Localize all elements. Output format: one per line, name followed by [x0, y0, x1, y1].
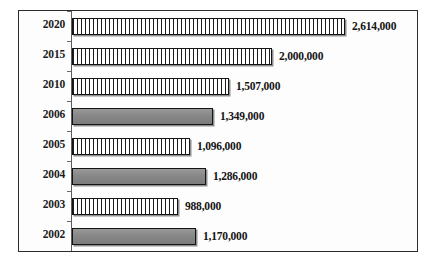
bar-2002: [72, 228, 196, 245]
value-label-2003: 988,000: [185, 200, 221, 213]
bar-row: 20152,000,000: [19, 41, 417, 71]
category-label-2003: 2003: [19, 198, 65, 211]
value-label-2020: 2,614,000: [352, 20, 396, 33]
value-label-2006: 1,349,000: [220, 110, 264, 123]
bar-and-label: 2,000,000: [72, 47, 323, 66]
axis-tick: [67, 191, 71, 192]
category-label-2020: 2020: [19, 18, 65, 31]
bar-and-label: 2,614,000: [72, 17, 396, 36]
bar-and-label: 1,096,000: [72, 137, 241, 156]
bar-row: 20101,507,000: [19, 71, 417, 101]
bar-rows-container: 20202,614,00020152,000,00020101,507,0002…: [19, 11, 417, 251]
axis-tick: [67, 131, 71, 132]
bar-chart-figure: 20202,614,00020152,000,00020101,507,0002…: [0, 0, 435, 268]
bar-2015: [72, 48, 272, 65]
bar-row: 2003988,000: [19, 191, 417, 221]
bar-2005: [72, 138, 190, 155]
bar-and-label: 1,170,000: [72, 227, 247, 246]
category-label-2015: 2015: [19, 48, 65, 61]
bar-and-label: 1,286,000: [72, 167, 257, 186]
axis-tick: [67, 41, 71, 42]
value-label-2005: 1,096,000: [197, 140, 241, 153]
category-label-2006: 2006: [19, 108, 65, 121]
category-label-2005: 2005: [19, 138, 65, 151]
value-label-2002: 1,170,000: [203, 230, 247, 243]
bar-row: 20041,286,000: [19, 161, 417, 191]
bar-2004: [72, 168, 206, 185]
category-label-2004: 2004: [19, 168, 65, 181]
axis-tick: [67, 11, 71, 12]
axis-tick: [67, 161, 71, 162]
bar-row: 20051,096,000: [19, 131, 417, 161]
bar-2010: [72, 78, 229, 95]
axis-tick: [67, 221, 71, 222]
value-label-2010: 1,507,000: [236, 80, 280, 93]
value-label-2015: 2,000,000: [279, 50, 323, 63]
bar-and-label: 1,507,000: [72, 77, 280, 96]
bar-and-label: 1,349,000: [72, 107, 264, 126]
bar-row: 20061,349,000: [19, 101, 417, 131]
category-label-2002: 2002: [19, 228, 65, 241]
bar-row: 20021,170,000: [19, 221, 417, 251]
axis-tick: [67, 101, 71, 102]
value-label-2004: 1,286,000: [213, 170, 257, 183]
bar-2020: [72, 18, 345, 35]
bar-2003: [72, 198, 178, 215]
axis-tick: [67, 71, 71, 72]
bar-2006: [72, 108, 213, 125]
bar-row: 20202,614,000: [19, 11, 417, 41]
bar-and-label: 988,000: [72, 197, 221, 216]
category-label-2010: 2010: [19, 78, 65, 91]
